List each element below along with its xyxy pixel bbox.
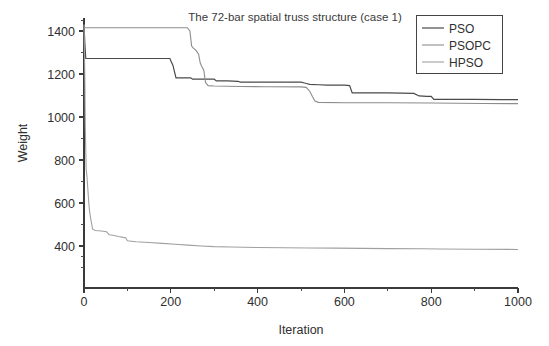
y-tick-label: 600: [54, 197, 75, 211]
x-tick-label: 800: [421, 295, 442, 309]
chart-figure: 40060080010001200140002004006008001000We…: [0, 0, 549, 346]
chart-title-group: The 72-bar spatial truss structure (case…: [188, 11, 402, 23]
y-tick-label: 1000: [47, 111, 75, 125]
x-axis-title: Iteration: [278, 323, 323, 337]
x-tick-label: 200: [160, 295, 181, 309]
x-tick-label: 0: [81, 295, 88, 309]
y-tick-label: 400: [54, 240, 75, 254]
legend-label-psopc[interactable]: PSOPC: [449, 39, 491, 53]
y-tick-label: 1200: [47, 68, 75, 82]
chart-title: The 72-bar spatial truss structure (case…: [188, 11, 402, 23]
legend-label-pso[interactable]: PSO: [449, 22, 474, 36]
y-tick-label: 1400: [47, 25, 75, 39]
y-axis-title: Weight: [16, 123, 30, 162]
x-tick-label: 1000: [504, 295, 532, 309]
chart-legend[interactable]: PSOPSOPCHPSO: [416, 15, 502, 73]
legend-label-hpso[interactable]: HPSO: [449, 56, 483, 70]
y-tick-label: 800: [54, 154, 75, 168]
line-chart: 40060080010001200140002004006008001000We…: [0, 0, 549, 346]
x-tick-label: 400: [247, 295, 268, 309]
x-tick-label: 600: [334, 295, 355, 309]
